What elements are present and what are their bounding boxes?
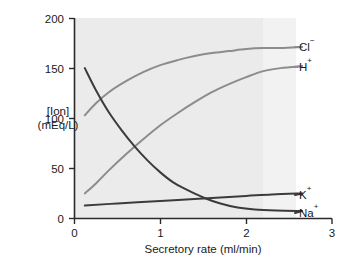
series-label-cl-text: Cl xyxy=(299,41,310,53)
figure-container: 200 150 100 50 0 0 1 2 3 [Ion] (mEq/L) S… xyxy=(0,0,338,261)
series-label-na: Na+ xyxy=(299,202,319,220)
y-axis-title-line1: [Ion] xyxy=(47,105,69,117)
series-label-cl-charge: − xyxy=(310,36,315,45)
series-label-h-text: H xyxy=(299,61,307,73)
y-tick-label-0: 0 xyxy=(58,213,64,225)
x-axis-title: Secretory rate (ml/min) xyxy=(145,243,262,255)
series-label-k: K+ xyxy=(299,184,312,202)
series-label-k-charge: + xyxy=(307,184,312,193)
series-label-h: H+ xyxy=(299,56,312,74)
series-label-h-charge: + xyxy=(307,56,312,65)
y-tick-label-150: 150 xyxy=(45,63,64,75)
x-tick-label-1: 1 xyxy=(157,227,163,239)
y-tick-label-50: 50 xyxy=(51,163,64,175)
series-label-na-charge: + xyxy=(314,202,319,211)
y-axis-title-line2: (mEq/L) xyxy=(38,119,79,131)
x-tick-label-2: 2 xyxy=(243,227,249,239)
x-tick-label-0: 0 xyxy=(71,227,77,239)
ion-concentration-line-chart: 200 150 100 50 0 0 1 2 3 [Ion] (mEq/L) S… xyxy=(0,0,338,261)
x-tick-label-3: 3 xyxy=(329,227,335,239)
series-label-na-text: Na xyxy=(299,207,314,219)
y-tick-label-200: 200 xyxy=(45,13,64,25)
series-label-cl: Cl− xyxy=(299,36,315,54)
x-tick-marks xyxy=(75,219,333,225)
